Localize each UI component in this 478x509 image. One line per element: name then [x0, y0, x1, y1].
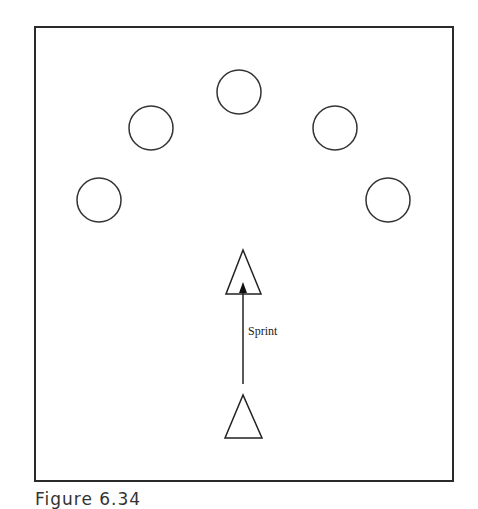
figure-caption: Figure 6.34	[35, 489, 141, 509]
cone-lower-right-icon	[366, 178, 410, 222]
sprint-label: Sprint	[248, 324, 278, 338]
cone-top-icon	[217, 70, 261, 114]
cone-upper-left-icon	[129, 106, 173, 150]
arrow-head-icon	[239, 282, 247, 293]
player-start-icon	[225, 395, 262, 438]
cone-upper-right-icon	[313, 106, 357, 150]
cone-lower-left-icon	[77, 178, 121, 222]
